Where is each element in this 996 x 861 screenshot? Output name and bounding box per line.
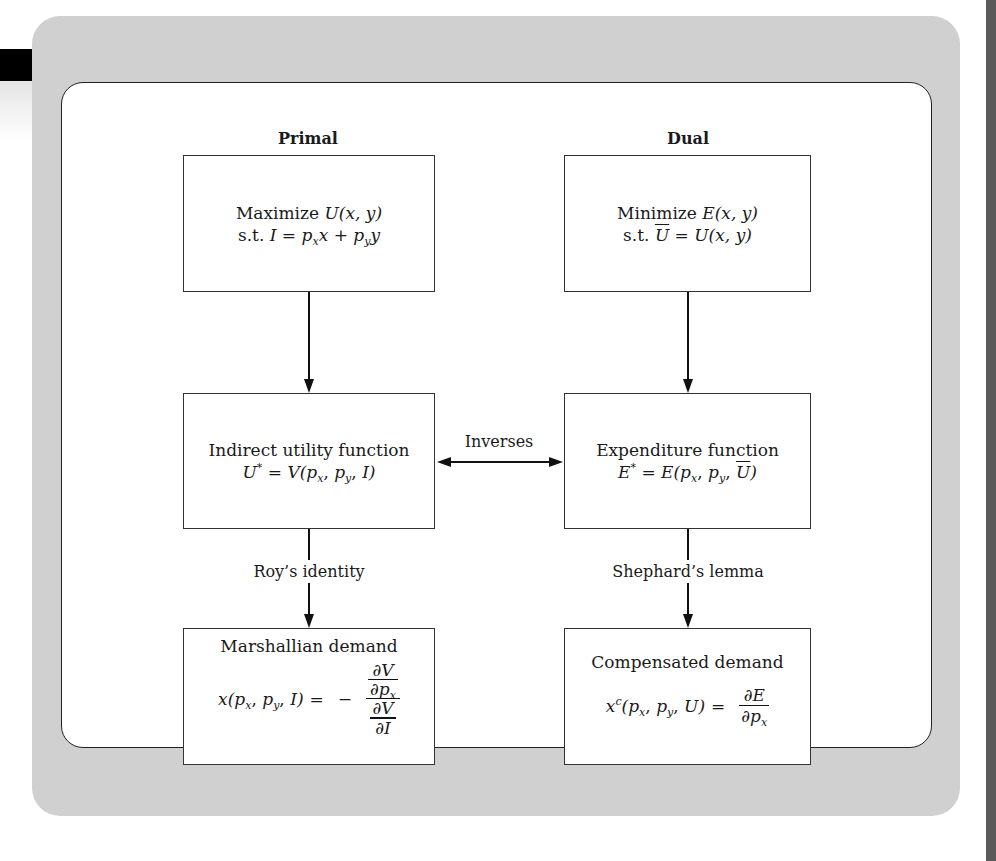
- arrow-primal-to-indirect: [308, 292, 310, 380]
- inverses-connector: [449, 461, 550, 463]
- math-price: p: [306, 462, 317, 482]
- math-comma: ,: [251, 689, 262, 709]
- page-edge-strip: [986, 0, 996, 861]
- arrow-head-down-icon: [304, 379, 314, 393]
- math-equals: =: [310, 688, 324, 710]
- partial-i: ∂I: [373, 719, 393, 737]
- arrow-head-left-icon: [437, 457, 451, 467]
- arrow-head-down-icon: [683, 379, 693, 393]
- primal-problem-box: Maximize U(x, y) s.t. I = pxx + pyy: [183, 155, 435, 292]
- roys-identity-fraction: ∂V ∂px ∂V ∂I: [366, 661, 400, 737]
- math-comma: ,: [279, 689, 290, 709]
- heading-dual: Dual: [563, 129, 813, 148]
- fraction-denominator: ∂V ∂I: [368, 699, 397, 736]
- math-paren: ): [750, 462, 757, 482]
- math-comma: ,: [725, 462, 736, 482]
- fraction-numerator: ∂V ∂px: [366, 661, 400, 698]
- page-corner-tab: [0, 49, 32, 81]
- math-var: U: [243, 462, 257, 482]
- math-comma: ,: [697, 462, 708, 482]
- math-price: p: [680, 462, 691, 482]
- math-plus: +: [328, 225, 353, 245]
- math-paren: ): [297, 689, 304, 709]
- dual-objective-math: E(x, y): [702, 203, 758, 223]
- primal-constraint: s.t. I = pxx + pyy: [238, 224, 380, 246]
- math-income: I: [290, 689, 297, 709]
- indirect-utility-title: Indirect utility function: [208, 439, 409, 461]
- math-price: p: [353, 225, 364, 245]
- partial-v: ∂V: [370, 699, 395, 717]
- shephards-lemma-fraction: ∂E ∂px: [739, 685, 769, 726]
- math-price: p: [656, 696, 667, 716]
- marshallian-demand-title: Marshallian demand: [220, 635, 397, 657]
- arrow-head-down-icon: [304, 614, 314, 628]
- math-eq: = V(: [262, 462, 306, 482]
- inverses-label: Inverses: [459, 432, 539, 451]
- primal-objective-math: U(x, y): [324, 203, 382, 223]
- math-var: x: [606, 696, 616, 716]
- dual-constraint-math: = U(x, y): [669, 225, 752, 245]
- partial-px: ∂px: [368, 680, 398, 698]
- dual-objective-label: Minimize: [617, 203, 702, 223]
- math-comma: ,: [673, 696, 684, 716]
- dual-constraint: s.t. U = U(x, y): [623, 224, 752, 246]
- math-comma: ,: [351, 462, 362, 482]
- shephards-lemma-label: Shephard’s lemma: [603, 560, 773, 583]
- math-var: x: [319, 225, 329, 245]
- page-left-shadow: [0, 81, 32, 141]
- expenditure-function-title: Expenditure function: [596, 439, 779, 461]
- math-paren: ): [369, 462, 376, 482]
- marshallian-demand-box: Marshallian demand x(px, py, I) = − ∂V ∂…: [183, 628, 435, 765]
- math-price: p: [708, 462, 719, 482]
- primal-constraint-label: s.t.: [238, 225, 270, 245]
- roys-identity-label: Roy’s identity: [238, 560, 380, 583]
- heading-primal: Primal: [183, 129, 433, 148]
- math-income: I: [362, 462, 369, 482]
- math-comma: ,: [645, 696, 656, 716]
- dual-objective: Minimize E(x, y): [617, 202, 758, 224]
- math-var: E: [618, 462, 630, 482]
- dual-constraint-label: s.t.: [623, 225, 655, 245]
- math-var: x(: [218, 689, 234, 709]
- math-utility: U: [684, 696, 698, 716]
- arrow-dual-to-expenditure: [687, 292, 689, 380]
- math-price: p: [262, 689, 273, 709]
- partial-px: ∂px: [739, 706, 769, 726]
- math-price: p: [628, 696, 639, 716]
- math-price: p: [302, 225, 313, 245]
- partial-e: ∂E: [742, 685, 767, 705]
- math-utility-bar: U: [655, 225, 669, 245]
- arrow-head-down-icon: [683, 614, 693, 628]
- indirect-utility-formula: U* = V(px, py, I): [243, 461, 376, 483]
- compensated-demand-title: Compensated demand: [591, 651, 783, 673]
- math-price: p: [234, 689, 245, 709]
- math-price: p: [334, 462, 345, 482]
- indirect-utility-box: Indirect utility function U* = V(px, py,…: [183, 393, 435, 529]
- math-equals: =: [276, 225, 301, 245]
- math-utility-bar: U: [736, 462, 750, 482]
- primal-objective-label: Maximize: [236, 203, 325, 223]
- compensated-demand-box: Compensated demand xc(px, py, U) = ∂E ∂p…: [564, 628, 811, 765]
- partial-v: ∂V: [370, 661, 395, 679]
- dual-problem-box: Minimize E(x, y) s.t. U = U(x, y): [564, 155, 811, 292]
- marshallian-demand-formula: x(px, py, I) = − ∂V ∂px ∂V ∂I: [218, 661, 400, 737]
- expenditure-function-box: Expenditure function E* = E(px, py, U): [564, 393, 811, 529]
- primal-objective: Maximize U(x, y): [236, 202, 382, 224]
- math-minus: −: [338, 688, 352, 710]
- math-var: y: [370, 225, 380, 245]
- math-paren: ): [698, 696, 705, 716]
- arrow-head-right-icon: [549, 457, 563, 467]
- math-equals: =: [711, 695, 725, 717]
- math-eq: = E(: [636, 462, 680, 482]
- compensated-demand-formula: xc(px, py, U) = ∂E ∂px: [606, 685, 769, 726]
- math-comma: ,: [323, 462, 334, 482]
- expenditure-function-formula: E* = E(px, py, U): [618, 461, 757, 483]
